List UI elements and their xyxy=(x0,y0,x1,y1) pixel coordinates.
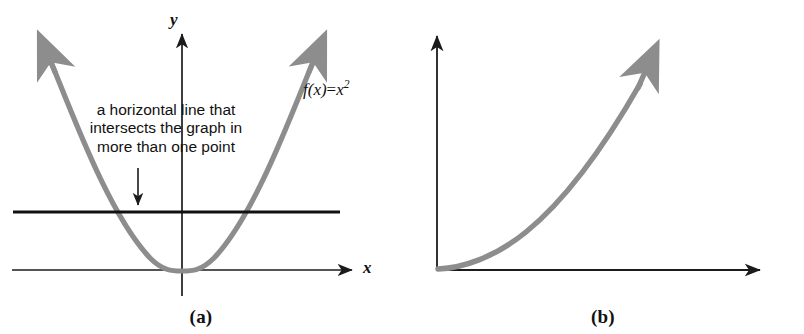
y-axis-label-a: y xyxy=(170,10,178,30)
equals-sign-a: = xyxy=(327,80,337,99)
panel-b: f(x)=x2, x ≥ 0 y x (b) xyxy=(402,0,804,334)
function-exponent-a: 2 xyxy=(344,78,350,91)
parabola-right-arrow xyxy=(309,46,320,72)
function-label-a: f(x)=x2 xyxy=(303,78,350,100)
parabola-left-arrow xyxy=(44,46,55,72)
panel-b-graphic xyxy=(402,0,804,334)
function-name-a: f(x) xyxy=(303,80,327,99)
panel-caption-a: (a) xyxy=(0,306,402,328)
panel-a: a horizontal line that intersects the gr… xyxy=(0,0,402,334)
function-expr-a: x xyxy=(336,80,344,99)
parabola-curve xyxy=(438,84,640,269)
x-axis-label-a: x xyxy=(363,258,372,278)
horizontal-line-test-figure: a horizontal line that intersects the gr… xyxy=(0,0,804,334)
panel-a-graphic xyxy=(0,0,402,334)
horizontal-line-annotation: a horizontal line that intersects the gr… xyxy=(66,101,266,156)
parabola-arrow xyxy=(638,56,652,88)
panel-caption-b: (b) xyxy=(402,306,804,328)
